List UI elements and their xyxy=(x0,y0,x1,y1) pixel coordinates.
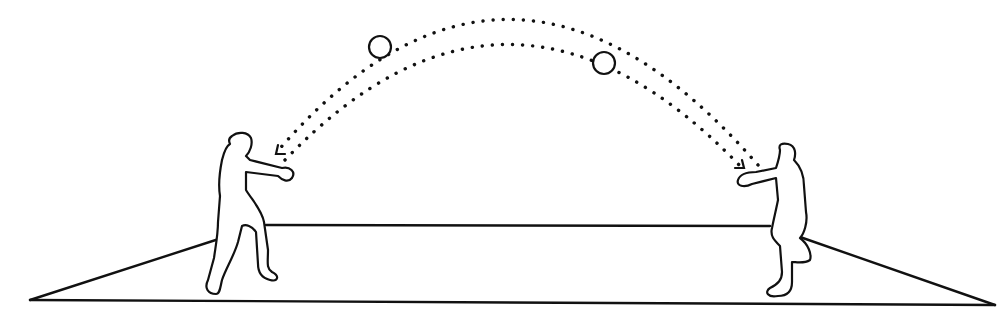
drill-canvas xyxy=(0,0,1001,327)
court-left-sideline xyxy=(30,237,225,300)
outer-trajectory-arc xyxy=(276,19,758,165)
left-player-figure xyxy=(206,133,293,294)
court-right-sideline xyxy=(800,237,995,305)
ball-inner-arc xyxy=(593,52,615,74)
inner-trajectory-arc xyxy=(285,44,742,168)
court xyxy=(30,225,995,305)
ball-outer-arc xyxy=(369,36,391,58)
court-back-line xyxy=(266,225,770,226)
throwing-drill-illustration xyxy=(0,0,1001,327)
court-front-line xyxy=(30,300,995,305)
right-player-figure xyxy=(738,144,811,297)
